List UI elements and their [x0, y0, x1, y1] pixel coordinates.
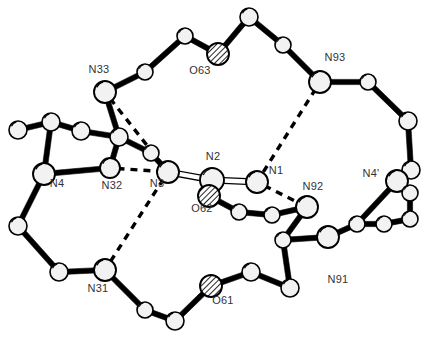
atom-sphere	[42, 113, 60, 131]
atom-sphere	[72, 122, 90, 140]
atom-carbon	[275, 232, 291, 248]
atom-sphere	[317, 226, 339, 248]
atom-N91	[317, 226, 339, 248]
atom-carbon	[376, 216, 392, 232]
atom-sphere	[246, 171, 268, 193]
atom-sphere	[231, 204, 247, 220]
atom-sphere	[275, 232, 291, 248]
hydrogen-bond	[117, 169, 159, 172]
atom-sphere	[137, 64, 153, 80]
atom-carbon	[42, 113, 60, 131]
atom-carbon	[349, 216, 365, 232]
bond	[406, 126, 414, 165]
hydrogen-bond	[261, 89, 315, 175]
atom-carbon	[402, 211, 418, 227]
atom-carbon	[137, 302, 153, 318]
atom-N93	[309, 71, 331, 93]
atom-label-N3: N3	[150, 177, 164, 189]
molecular-structure-figure: N33O63N93N2N1N4'N4N32N3N92O62N91N31O61	[0, 0, 426, 342]
atom-label-N2: N2	[206, 150, 220, 162]
atom-carbon	[399, 112, 417, 130]
atom-label-O61: O61	[212, 294, 233, 306]
atom-sphere	[376, 216, 392, 232]
atom-sphere	[360, 74, 376, 90]
atom-carbon	[50, 263, 68, 281]
atom-label-N32: N32	[102, 179, 123, 191]
atom-label-N31: N31	[88, 282, 109, 294]
bond	[281, 244, 292, 283]
atom-sphere	[9, 121, 27, 139]
atom-N32	[100, 158, 120, 178]
atom-carbon	[143, 145, 159, 161]
atom-carbon	[177, 28, 193, 44]
atom-N33	[94, 81, 116, 103]
atom-sphere	[402, 185, 418, 201]
atom-carbon	[137, 64, 153, 80]
atom-label-N4prime: N4'	[363, 167, 380, 179]
bond	[19, 228, 57, 270]
atom-N92	[296, 196, 318, 218]
atom-carbon	[110, 128, 128, 146]
atom-sphere	[50, 263, 68, 281]
atom-sphere	[94, 81, 116, 103]
atom-label-N91: N91	[328, 273, 349, 285]
atom-sphere	[177, 28, 193, 44]
atom-sphere	[94, 259, 116, 281]
atom-carbon	[72, 122, 90, 140]
atom-carbon	[240, 8, 258, 26]
atom-sphere	[264, 207, 280, 223]
bond	[50, 166, 105, 176]
atom-sphere	[166, 312, 184, 330]
atom-sphere	[100, 158, 120, 178]
atom-N31	[94, 259, 116, 281]
atom-sphere	[296, 196, 318, 218]
atom-carbon	[9, 217, 27, 235]
atom-label-N93: N93	[325, 51, 346, 63]
atom-label-N92: N92	[303, 180, 324, 192]
atom-carbon	[242, 263, 260, 281]
atom-sphere	[207, 43, 229, 65]
atom-carbon	[166, 312, 184, 330]
atom-carbon	[264, 207, 280, 223]
atom-carbon	[9, 121, 27, 139]
atom-carbon	[402, 185, 418, 201]
hydrogen-bond	[109, 179, 163, 263]
atom-sphere	[143, 145, 159, 161]
atom-sphere	[110, 128, 128, 146]
atom-sphere	[9, 217, 27, 235]
atom-label-N4: N4	[50, 177, 64, 189]
bond	[147, 37, 184, 71]
atom-carbon	[231, 204, 247, 220]
atom-label-N1: N1	[269, 164, 283, 176]
atom-sphere	[349, 216, 365, 232]
atom-label-O62: O62	[191, 202, 212, 214]
atom-O63	[207, 43, 229, 65]
atom-sphere	[242, 263, 260, 281]
atom-sphere	[402, 211, 418, 227]
atom-carbon	[281, 279, 299, 297]
atom-sphere	[309, 71, 331, 93]
atom-sphere	[275, 37, 291, 53]
structure-canvas: N33O63N93N2N1N4'N4N32N3N92O62N91N31O61	[0, 0, 426, 342]
atom-sphere	[281, 279, 299, 297]
atom-sphere	[240, 8, 258, 26]
hydrogen-bond	[264, 186, 299, 204]
atom-carbon	[275, 37, 291, 53]
bond	[369, 83, 406, 119]
atom-label-N33: N33	[89, 63, 110, 75]
atom-sphere	[399, 112, 417, 130]
atom-sphere	[137, 302, 153, 318]
atom-label-O63: O63	[189, 64, 210, 76]
atom-carbon	[360, 74, 376, 90]
atom-N1	[246, 171, 268, 193]
